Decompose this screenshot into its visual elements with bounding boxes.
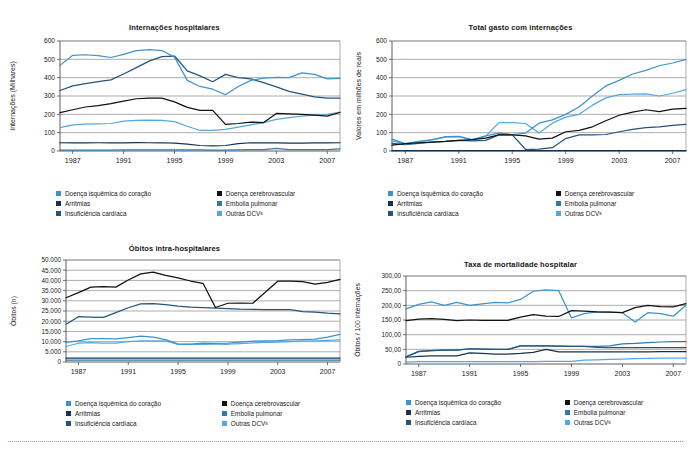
legend-label-embolia-pulmonar: Embolia pulmonar [574,408,626,417]
chart-title: Óbitos intra-hospitalares [4,243,345,254]
svg-text:45.000: 45.000 [41,267,61,274]
legend-item-outras-dcv: Outras DCVs [565,418,691,427]
legend-label-arritmias: Arritmias [65,199,90,208]
legend-label-arritmias: Arritmias [415,408,440,417]
svg-text:20.000: 20.000 [41,318,61,325]
legend-swatch-doenca-cerebrovascular [565,400,570,405]
legend-swatch-insuficiencia-cardiaca [388,211,393,216]
legend-label-outras-dcv-suffix: s [265,419,268,428]
svg-text:0: 0 [57,358,61,365]
legend-item-insuficiencia-cardiaca: Insuficiência cardíaca [406,418,549,427]
svg-text:35.000: 35.000 [41,287,61,294]
svg-text:40.000: 40.000 [41,277,61,284]
legend-item-arritmias: Arritmias [66,409,206,418]
legend-swatch-outras-dcv [217,211,222,216]
legend-item-doenca-isquemica: Doença isquêmica do coração [56,189,201,198]
legend-swatch-outras-dcv [565,420,570,425]
chart-legend: Doença isquêmica do coração Doença cereb… [66,399,345,428]
legend-swatch-embolia-pulmonar [556,201,561,206]
chart-title: Taxa de mortalidade hospitalar [350,259,691,270]
legend-item-outras-dcv: Outras DCVs [222,419,345,428]
svg-text:2003: 2003 [615,370,631,377]
svg-text:2003: 2003 [270,368,286,375]
chart-title: Total gasto com internações [350,22,691,33]
svg-text:100: 100 [44,129,55,136]
figure-page: Internações hospitalares 010020030040050… [0,0,691,451]
legend-item-arritmias: Arritmias [56,199,201,208]
chart-panel-taxa-de-mortalidade-hospitalar: Taxa de mortalidade hospitalar 050,00100… [350,259,691,427]
legend-swatch-outras-dcv [556,211,561,216]
legend-label-arritmias: Arritmias [75,409,100,418]
svg-text:300: 300 [44,92,55,99]
svg-text:1991: 1991 [462,370,478,377]
legend-swatch-doenca-isquemica [406,400,411,405]
svg-text:300,00: 300,00 [381,272,401,279]
svg-text:1999: 1999 [220,368,236,375]
legend-item-doenca-cerebrovascular: Doença cerebrovascular [217,189,345,198]
svg-text:Óbitos / 100 internações: Óbitos / 100 internações [353,283,362,357]
line-chart-svg: 050,00100,00150,00200,00250,00300,001987… [350,270,691,394]
legend-label-doenca-cerebrovascular: Doença cerebrovascular [226,189,295,198]
legend-swatch-embolia-pulmonar [217,201,222,206]
chart-panel-internacoes-hospitalares: Internações hospitalares 010020030040050… [4,22,345,218]
plot-area: 050,00100,00150,00200,00250,00300,001987… [350,270,691,394]
svg-text:200: 200 [376,111,387,118]
legend-swatch-doenca-cerebrovascular [556,191,561,196]
svg-text:600: 600 [376,37,387,44]
line-chart-svg: 0100200300400500600198719911995199920032… [4,33,345,183]
svg-text:Óbitos (n): Óbitos (n) [9,296,18,326]
legend-label-outras-dcv: Outras DCV [574,418,608,427]
legend-swatch-insuficiencia-cardiaca [56,211,61,216]
legend-item-arritmias: Arritmias [388,199,540,208]
svg-text:1999: 1999 [558,156,574,165]
legend-label-outras-dcv: Outras DCV [565,209,599,218]
svg-text:1995: 1995 [504,156,520,165]
legend-item-outras-dcv: Outras DCVs [217,209,345,218]
svg-text:10.000: 10.000 [41,338,61,345]
svg-text:2003: 2003 [611,156,627,165]
legend-label-embolia-pulmonar: Embolia pulmonar [231,409,283,418]
line-chart-svg: 05.00010.00015.00020.00025.00030.00035.0… [4,254,345,394]
legend-label-arritmias: Arritmias [397,199,422,208]
svg-text:400: 400 [44,74,55,81]
plot-area: 0100200300400500600198719911995199920032… [350,33,691,183]
svg-text:1995: 1995 [167,156,183,165]
chart-title: Internações hospitalares [4,22,345,33]
legend-label-embolia-pulmonar: Embolia pulmonar [226,199,278,208]
svg-text:1999: 1999 [564,370,580,377]
svg-text:500: 500 [376,56,387,63]
chart-legend: Doença isquêmica do coração Doença cereb… [406,398,691,427]
svg-text:2003: 2003 [268,156,284,165]
legend-swatch-doenca-isquemica [56,191,61,196]
legend-swatch-doenca-isquemica [388,191,393,196]
svg-text:Valores em milhões de reais: Valores em milhões de reais [355,52,362,140]
svg-text:50,00: 50,00 [385,346,401,353]
legend-label-outras-dcv-suffix: s [260,209,263,218]
legend-label-outras-dcv: Outras DCV [226,209,260,218]
legend-label-doenca-isquemica: Doença isquêmica do coração [397,189,483,198]
legend-swatch-arritmias [66,411,71,416]
svg-text:1991: 1991 [116,156,132,165]
svg-text:1991: 1991 [451,156,467,165]
svg-text:1999: 1999 [217,156,233,165]
legend-swatch-arritmias [56,201,61,206]
legend-label-doenca-isquemica: Doença isquêmica do coração [75,399,161,408]
svg-text:150,00: 150,00 [381,316,401,323]
legend-label-insuficiencia-cardiaca: Insuficiência cardíaca [415,418,476,427]
svg-text:2007: 2007 [319,156,335,165]
svg-text:0: 0 [51,147,55,154]
legend-item-embolia-pulmonar: Embolia pulmonar [565,408,691,417]
svg-text:100,00: 100,00 [381,331,401,338]
svg-text:250,00: 250,00 [381,287,401,294]
legend-label-outras-dcv-suffix: s [608,418,611,427]
chart-legend: Doença isquêmica do coração Doença cereb… [388,189,691,218]
svg-text:25.000: 25.000 [41,307,61,314]
svg-text:1987: 1987 [411,370,427,377]
svg-text:300: 300 [376,92,387,99]
svg-text:1987: 1987 [71,368,87,375]
plot-area: 0100200300400500600198719911995199920032… [4,33,345,183]
svg-text:2007: 2007 [665,370,681,377]
svg-text:15.000: 15.000 [41,328,61,335]
svg-text:1991: 1991 [120,368,136,375]
chart-panel-total-gasto-com-internacoes: Total gasto com internações 010020030040… [350,22,691,218]
